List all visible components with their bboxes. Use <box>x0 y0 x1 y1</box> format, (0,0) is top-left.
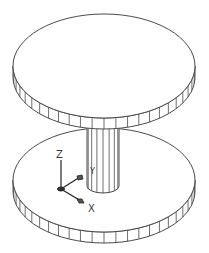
top-disk-top-face <box>13 14 195 118</box>
top-disk[interactable] <box>13 14 195 129</box>
z-axis-label: Z <box>56 149 63 160</box>
model-drawing: Z Y X <box>0 0 209 253</box>
origin-marker-icon <box>58 187 65 191</box>
shaft-cylinder[interactable] <box>87 120 119 193</box>
cad-viewport[interactable]: Z Y X <box>0 0 209 253</box>
x-axis-label: X <box>88 203 95 214</box>
y-axis-label: Y <box>89 167 95 176</box>
y-arrowhead-icon <box>77 175 83 180</box>
